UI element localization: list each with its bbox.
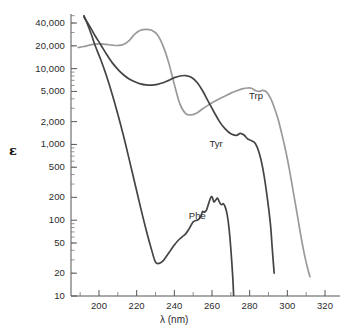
y-axis-tick-label: 10 bbox=[0, 290, 65, 301]
y-axis-tick-label: 500 bbox=[0, 161, 65, 172]
y-axis-tick-label: 50 bbox=[0, 237, 65, 248]
series-label-trp: Trp bbox=[249, 90, 263, 101]
x-axis-tick-label: 280 bbox=[230, 300, 270, 311]
x-axis-title: λ (nm) bbox=[160, 314, 188, 325]
x-axis-tick-label: 200 bbox=[79, 300, 119, 311]
y-axis-tick-label: 40,000 bbox=[0, 17, 65, 28]
x-axis-tick-label: 220 bbox=[117, 300, 157, 311]
series-label-tyr: Tyr bbox=[210, 138, 223, 149]
y-axis-tick-label: 20 bbox=[0, 267, 65, 278]
x-axis-tick-label: 320 bbox=[305, 300, 345, 311]
series-line-phe bbox=[84, 16, 234, 296]
y-axis-tick-label: 200 bbox=[0, 191, 65, 202]
y-axis-tick-label: 10,000 bbox=[0, 63, 65, 74]
series-label-phe: Phe bbox=[189, 210, 206, 221]
series-line-trp bbox=[78, 29, 310, 276]
y-axis-tick-label: 1,000 bbox=[0, 138, 65, 149]
y-axis-tick-label: 5,000 bbox=[0, 85, 65, 96]
x-axis-tick-label: 240 bbox=[154, 300, 194, 311]
y-axis-tick-label: 20,000 bbox=[0, 40, 65, 51]
y-axis-tick-label: 2,000 bbox=[0, 116, 65, 127]
x-axis-tick-label: 260 bbox=[192, 300, 232, 311]
series-line-tyr bbox=[84, 17, 274, 273]
y-axis-tick-label: 100 bbox=[0, 214, 65, 225]
x-axis-tick-label: 300 bbox=[267, 300, 307, 311]
uv-absorption-spectra-chart: ε λ (nm) 1020501002005001,0002,0005,0001… bbox=[0, 0, 348, 333]
